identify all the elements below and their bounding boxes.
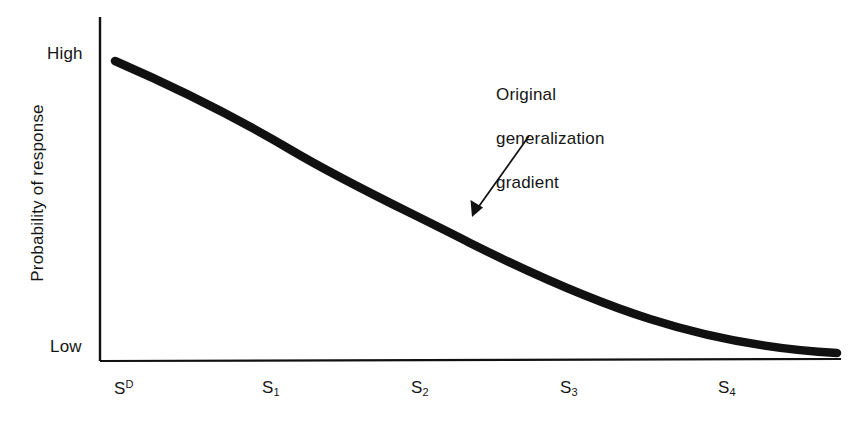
- y-tick-label-high: High: [47, 44, 83, 64]
- annotation-line-2: generalization: [496, 128, 605, 150]
- x-tick-label-s3: S3: [560, 378, 578, 398]
- x-tick-base: S: [411, 378, 423, 397]
- x-tick-script: 4: [730, 386, 736, 398]
- x-tick-script: 3: [572, 386, 578, 398]
- annotation-line-1: Original: [496, 84, 605, 106]
- y-axis-title: Probability of response: [28, 78, 48, 308]
- x-axis-line: [100, 359, 841, 361]
- x-tick-script: 1: [274, 386, 280, 398]
- x-tick-label-s4: S4: [718, 378, 736, 398]
- y-tick-label-low: Low: [50, 337, 82, 357]
- plot-area: [0, 0, 863, 423]
- x-tick-label-s1: S1: [262, 378, 280, 398]
- x-tick-label-s2: S2: [411, 378, 429, 398]
- annotation-line-3: gradient: [496, 172, 605, 194]
- x-tick-base: S: [262, 378, 274, 397]
- x-tick-script: 2: [423, 386, 429, 398]
- x-tick-base: S: [718, 378, 730, 397]
- curve-annotation-label: Original generalization gradient: [496, 62, 605, 216]
- x-tick-label-sd: SD: [114, 378, 134, 399]
- x-tick-base: S: [114, 379, 126, 398]
- x-tick-script: D: [126, 378, 134, 390]
- x-tick-base: S: [560, 378, 572, 397]
- generalization-gradient-figure: Probability of response High Low SD S1 S…: [0, 0, 863, 423]
